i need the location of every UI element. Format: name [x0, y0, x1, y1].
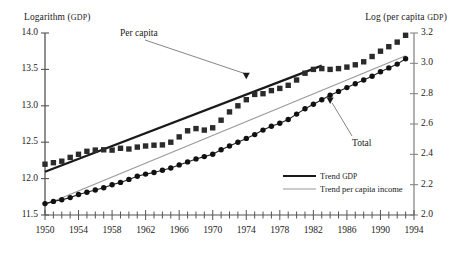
right-axis-tick-label: 3.2	[421, 27, 451, 37]
left-axis-tick-label: 14.0	[8, 27, 38, 37]
data-point-total	[344, 85, 349, 90]
leader-line-total	[332, 103, 352, 136]
data-point-per-capita	[252, 92, 257, 97]
right-axis-tick-label: 2.4	[421, 148, 451, 158]
data-point-total	[168, 165, 173, 170]
data-point-per-capita	[269, 88, 274, 93]
right-axis-tick-label: 2.6	[421, 118, 451, 128]
data-point-per-capita	[202, 127, 207, 132]
data-point-per-capita	[361, 59, 366, 64]
data-point-per-capita	[286, 83, 291, 88]
trend-line-gdp	[45, 66, 322, 172]
data-point-per-capita	[84, 149, 89, 154]
data-point-total	[59, 197, 64, 202]
data-point-total	[403, 56, 408, 61]
data-point-per-capita	[126, 146, 131, 151]
data-point-per-capita	[168, 140, 173, 145]
data-point-total	[386, 65, 391, 70]
right-axis-tick-label: 3.0	[421, 57, 451, 67]
data-point-per-capita	[118, 146, 123, 151]
data-point-total	[185, 159, 190, 164]
data-point-total	[118, 180, 123, 185]
data-point-total	[260, 127, 265, 132]
data-point-per-capita	[193, 126, 198, 131]
data-point-per-capita	[294, 77, 299, 82]
left-axis-tick-label: 12.0	[8, 173, 38, 183]
data-point-per-capita	[151, 143, 156, 148]
data-point-total	[218, 147, 223, 152]
data-point-total	[93, 187, 98, 192]
data-point-total	[369, 74, 374, 79]
leader-line-per-capita	[145, 40, 245, 74]
data-point-total	[151, 170, 156, 175]
data-point-per-capita	[59, 159, 64, 164]
data-point-total	[202, 154, 207, 159]
data-point-total	[42, 201, 47, 206]
data-point-total	[51, 199, 56, 204]
data-point-total	[361, 77, 366, 82]
data-point-total	[126, 177, 131, 182]
data-point-total	[135, 174, 140, 179]
data-point-per-capita	[260, 91, 265, 96]
data-point-per-capita	[177, 134, 182, 139]
data-point-per-capita	[93, 147, 98, 152]
data-point-per-capita	[109, 147, 114, 152]
data-point-per-capita	[353, 62, 358, 67]
data-point-per-capita	[336, 66, 341, 71]
right-axis-tick-label: 2.0	[421, 209, 451, 219]
data-point-per-capita	[395, 39, 400, 44]
data-point-total	[269, 124, 274, 129]
data-point-total	[101, 185, 106, 190]
data-point-per-capita	[386, 44, 391, 49]
data-point-total	[353, 81, 358, 86]
data-point-total	[177, 162, 182, 167]
data-point-per-capita	[101, 147, 106, 152]
data-point-per-capita	[227, 109, 232, 114]
data-point-per-capita	[51, 160, 56, 165]
data-point-per-capita	[369, 54, 374, 59]
left-axis-tick-label: 11.5	[8, 209, 38, 219]
data-point-per-capita	[218, 118, 223, 123]
data-point-total	[76, 192, 81, 197]
left-axis-tick-label: 12.5	[8, 136, 38, 146]
data-point-per-capita	[277, 86, 282, 91]
data-point-total	[395, 61, 400, 66]
chart-container: Logarithm (GDP) Log (per capita GDP) Per…	[0, 0, 453, 256]
trend-line-per-capita	[45, 56, 406, 205]
data-point-per-capita	[327, 67, 332, 72]
x-axis-tick-label: 1994	[394, 225, 434, 235]
data-point-per-capita	[76, 152, 81, 157]
data-point-per-capita	[143, 143, 148, 148]
arrowhead-per-capita	[243, 73, 250, 80]
data-point-total	[109, 182, 114, 187]
data-point-total	[227, 143, 232, 148]
right-axis-tick-label: 2.2	[421, 179, 451, 189]
data-point-total	[311, 102, 316, 107]
data-point-total	[302, 106, 307, 111]
data-point-total	[378, 69, 383, 74]
left-axis-tick-label: 13.5	[8, 63, 38, 73]
data-point-per-capita	[210, 125, 215, 130]
data-point-total	[193, 156, 198, 161]
data-point-per-capita	[135, 144, 140, 149]
data-point-per-capita	[403, 33, 408, 38]
plot-area	[0, 0, 453, 256]
data-point-per-capita	[378, 49, 383, 54]
data-point-per-capita	[185, 128, 190, 133]
data-point-total	[68, 195, 73, 200]
data-point-per-capita	[160, 142, 165, 147]
data-point-per-capita	[235, 103, 240, 108]
data-point-total	[244, 136, 249, 141]
data-point-total	[277, 121, 282, 126]
data-point-per-capita	[319, 66, 324, 71]
left-axis-tick-label: 13.0	[8, 100, 38, 110]
data-point-total	[252, 132, 257, 137]
data-point-total	[160, 168, 165, 173]
right-axis-tick-label: 2.8	[421, 88, 451, 98]
data-point-total	[336, 89, 341, 94]
data-point-total	[327, 93, 332, 98]
data-point-per-capita	[302, 71, 307, 76]
data-point-total	[319, 97, 324, 102]
data-point-per-capita	[42, 162, 47, 167]
data-point-per-capita	[311, 67, 316, 72]
